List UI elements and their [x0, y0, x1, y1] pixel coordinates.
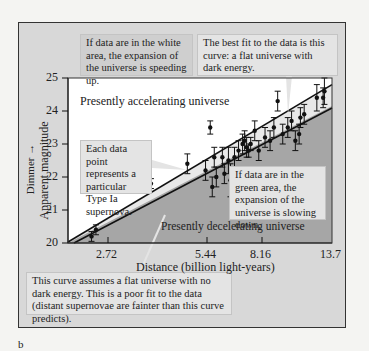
- data-point: [203, 168, 207, 172]
- data-point: [257, 148, 261, 152]
- callout-green-area: If data are in the green area, the expan…: [229, 166, 326, 220]
- data-point: [322, 89, 326, 93]
- data-point: [315, 96, 319, 100]
- data-point: [232, 155, 236, 159]
- data-point: [297, 132, 301, 136]
- data-point: [220, 155, 224, 159]
- data-point: [94, 228, 98, 232]
- data-point: [293, 139, 297, 143]
- data-point: [226, 158, 230, 162]
- y-axis-annotation-dimmer: Dimmer →: [24, 129, 36, 209]
- y-axis-title: Apparent magnitude: [37, 111, 52, 231]
- y-tick-label: 20: [46, 235, 58, 250]
- data-point: [302, 112, 306, 116]
- data-point: [212, 155, 216, 159]
- x-axis-title: Distance (billion light-years): [136, 260, 275, 275]
- data-point: [248, 142, 252, 146]
- data-point: [185, 162, 189, 166]
- data-point: [286, 125, 290, 129]
- data-point: [236, 148, 240, 152]
- region-label-decelerating: Presently decelerating universe: [161, 220, 305, 232]
- callout-data-point: Each data point represents a particular …: [80, 140, 152, 194]
- data-point: [275, 99, 279, 103]
- data-point: [281, 132, 285, 136]
- region-label-accelerating: Presently accelerating universe: [80, 94, 229, 109]
- data-point: [214, 175, 218, 179]
- y-tick-label: 25: [46, 70, 58, 85]
- callout-no-dark-energy: This curve assumes a flat universe with …: [26, 272, 232, 315]
- x-tick-label: 2.72: [96, 247, 117, 262]
- callout-best-fit: The best fit to the data is this curve: …: [197, 34, 338, 76]
- data-point: [268, 139, 272, 143]
- callout-white-area: If data are in the white area, the expan…: [80, 34, 193, 76]
- data-point: [289, 119, 293, 123]
- data-point: [208, 125, 212, 129]
- x-tick-label: 13.7: [320, 247, 341, 262]
- panel-label: b: [18, 338, 24, 350]
- data-point: [272, 125, 276, 129]
- data-point: [263, 135, 267, 139]
- data-point: [253, 129, 257, 133]
- data-point: [298, 115, 302, 119]
